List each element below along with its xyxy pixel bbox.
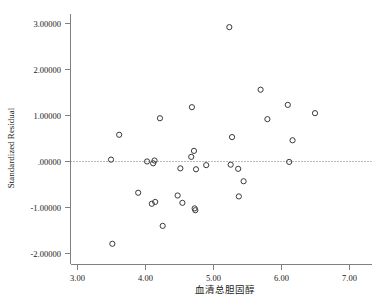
data-point <box>136 190 141 195</box>
data-point <box>193 167 198 172</box>
data-point <box>258 87 263 92</box>
data-point <box>160 223 165 228</box>
data-point <box>204 163 209 168</box>
data-point <box>290 138 295 143</box>
data-point <box>241 179 246 184</box>
data-points-group <box>108 25 317 247</box>
y-tick-label: 3.00000 <box>33 19 61 29</box>
axes-group <box>71 14 373 265</box>
y-tick-labels: 3.000002.000001.00000.00000-1.00000-2.00… <box>31 19 61 259</box>
x-tick-labels: 3.004.005.006.007.00 <box>70 273 357 283</box>
data-point <box>178 166 183 171</box>
data-point <box>157 116 162 121</box>
y-tick-marks <box>65 24 71 254</box>
y-tick-label: -1.00000 <box>31 203 61 213</box>
data-point <box>191 148 196 153</box>
data-point <box>189 154 194 159</box>
x-tick-label: 3.00 <box>70 273 85 283</box>
x-axis-title: 血清总胆固醇 <box>195 284 255 295</box>
y-tick-label: -2.00000 <box>31 249 61 259</box>
scatterplot-chart: 3.000002.000001.00000.00000-1.00000-2.00… <box>0 0 381 307</box>
data-point <box>108 157 113 162</box>
x-tick-marks <box>78 265 350 271</box>
plot-canvas: 3.000002.000001.00000.00000-1.00000-2.00… <box>0 0 381 307</box>
data-point <box>175 193 180 198</box>
data-point <box>312 111 317 116</box>
data-point <box>228 162 233 167</box>
x-tick-label: 5.00 <box>206 273 221 283</box>
x-tick-label: 4.00 <box>138 273 153 283</box>
data-point <box>236 194 241 199</box>
data-point <box>227 25 232 30</box>
data-point <box>189 105 194 110</box>
y-axis-title: Standardized Residual <box>6 107 16 188</box>
data-point <box>110 241 115 246</box>
data-point <box>180 200 185 205</box>
y-tick-label: 1.00000 <box>33 111 61 121</box>
data-point <box>117 132 122 137</box>
x-tick-label: 6.00 <box>274 273 289 283</box>
y-tick-label: .00000 <box>38 157 61 167</box>
data-point <box>285 102 290 107</box>
data-point <box>236 166 241 171</box>
data-point <box>265 117 270 122</box>
y-tick-label: 2.00000 <box>33 65 61 75</box>
x-tick-label: 7.00 <box>342 273 357 283</box>
data-point <box>229 134 234 139</box>
